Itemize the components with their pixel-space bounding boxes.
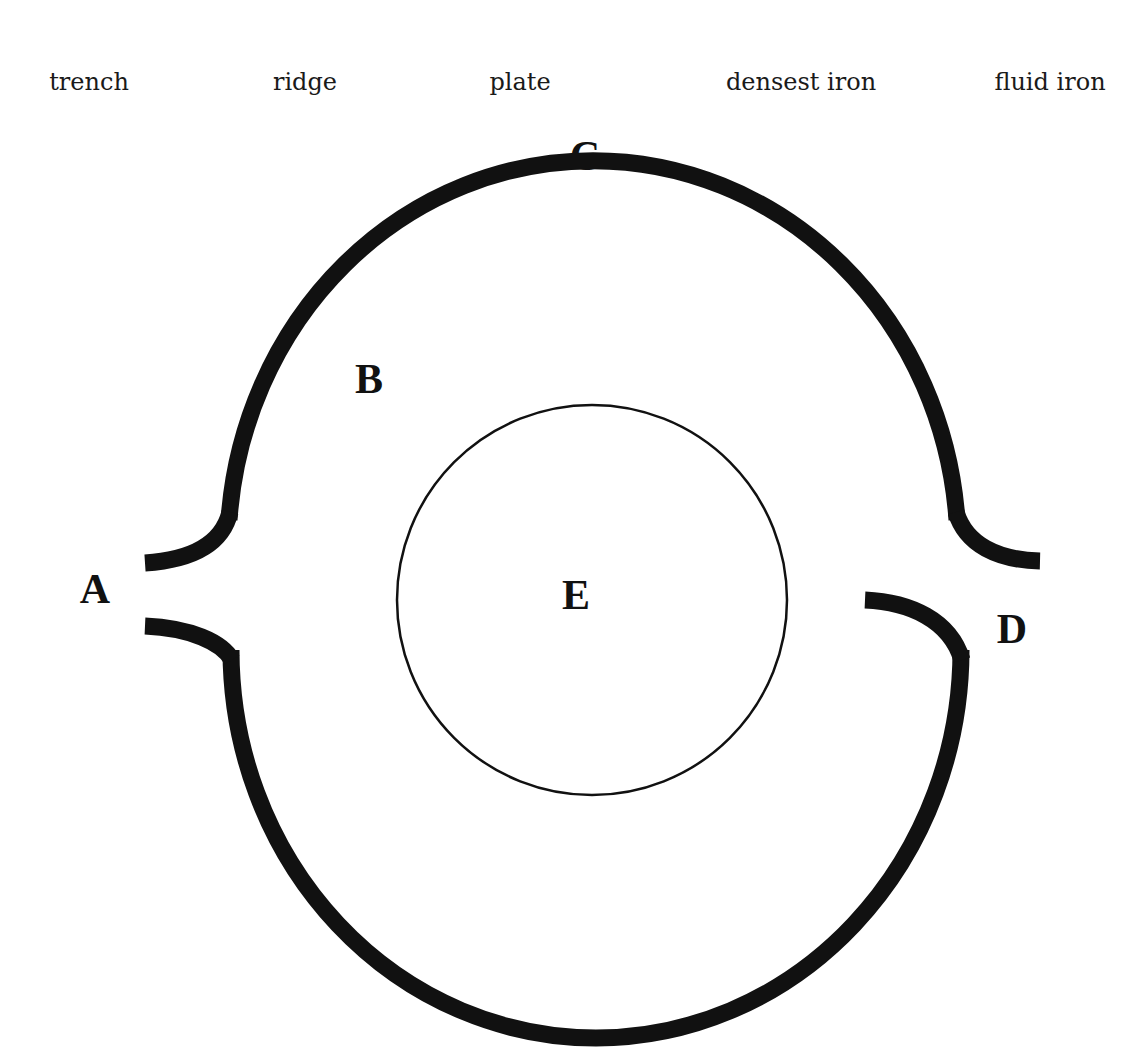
label-a: A	[80, 566, 111, 612]
outer-ring-lower-arc	[231, 650, 961, 1038]
label-c: C	[570, 133, 600, 179]
hook-lower-left	[145, 626, 232, 660]
hook-upper-left	[145, 512, 230, 563]
outer-ring-upper-arc	[229, 161, 957, 520]
earth-structure-diagram: A B C D E	[0, 0, 1146, 1064]
label-d: D	[997, 606, 1027, 652]
hook-lower-right	[865, 600, 962, 660]
inner-core-circle	[397, 405, 787, 795]
label-b: B	[355, 356, 383, 402]
label-e: E	[562, 572, 590, 618]
hook-upper-right	[956, 512, 1040, 561]
